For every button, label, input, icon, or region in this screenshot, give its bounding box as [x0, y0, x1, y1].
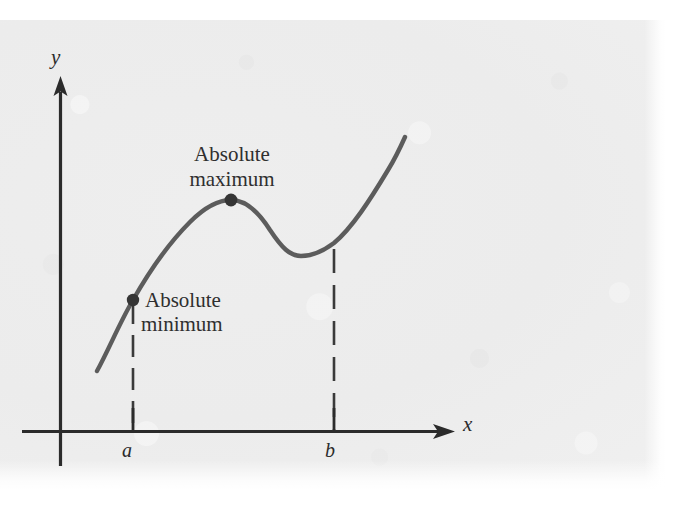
x-axis-label: x	[462, 412, 473, 436]
absolute-maximum-label-line2: maximum	[189, 167, 274, 191]
absolute-minimum-point	[127, 294, 139, 306]
tick-label-a: a	[122, 439, 132, 461]
figure-page: y x a b Absolute maximum Absolute minimu…	[0, 0, 690, 505]
absolute-minimum-label-line2: minimum	[141, 312, 223, 336]
absolute-maximum-point	[225, 194, 238, 207]
absolute-maximum-label-line1: Absolute	[194, 142, 270, 166]
y-axis-label: y	[49, 45, 61, 69]
absolute-minimum-label-line1: Absolute	[145, 288, 221, 312]
axes-group	[22, 76, 455, 466]
tick-label-b: b	[325, 439, 335, 461]
absolute-maximum-annotation: Absolute maximum	[189, 142, 274, 191]
axis-ticks-group	[133, 408, 334, 431]
absolute-minimum-annotation: Absolute minimum	[141, 288, 223, 336]
dashed-guides-group	[133, 249, 334, 431]
graph-figure: y x a b Absolute maximum Absolute minimu…	[0, 0, 690, 505]
